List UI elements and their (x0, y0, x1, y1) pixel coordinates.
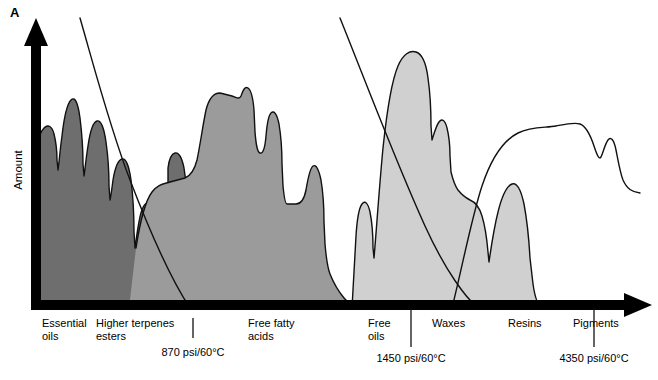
sfe-chromatogram-figure: A Amount Essential oils Higher terpenes … (0, 0, 658, 380)
fraction-label-essential-oils-line1: Essential (42, 317, 87, 329)
fraction-labels: Essential oils Higher terpenes esters Fr… (42, 317, 619, 342)
condition-label-1450: 1450 psi/60°C (376, 352, 445, 364)
fraction-label-higher-terpenes-esters-line1: Higher terpenes (96, 317, 175, 329)
fraction-label-essential-oils-line2: oils (42, 330, 59, 342)
fraction-label-free-fatty-acids-line2: acids (248, 330, 274, 342)
region-waxes-resins (352, 52, 542, 308)
panel-letter: A (10, 5, 20, 20)
condition-label-870: 870 psi/60°C (161, 346, 224, 358)
fraction-label-resins: Resins (508, 317, 542, 329)
fraction-label-waxes: Waxes (432, 317, 466, 329)
condition-markers: 870 psi/60°C 1450 psi/60°C 4350 psi/60°C (161, 308, 628, 364)
fraction-label-free-oils-line1: Free (368, 317, 391, 329)
fraction-label-higher-terpenes-esters-line2: esters (96, 330, 126, 342)
chromatogram-plot: A Amount Essential oils Higher terpenes … (0, 0, 658, 380)
fraction-label-free-oils-line2: oils (368, 330, 385, 342)
condition-label-4350: 4350 psi/60°C (559, 352, 628, 364)
fraction-label-pigments: Pigments (573, 317, 619, 329)
y-axis-title: Amount (12, 149, 24, 189)
fraction-label-free-fatty-acids-line1: Free fatty (248, 317, 295, 329)
region-terpenes-fatty-acids (129, 87, 360, 308)
